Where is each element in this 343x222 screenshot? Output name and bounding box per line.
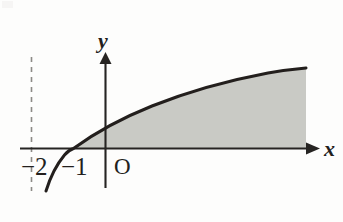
shaded-area-region	[74, 68, 307, 149]
graph-plot: −2 −1 O y x	[0, 0, 343, 222]
x-tick-label-minus-1: −1	[61, 153, 88, 180]
x-axis-arrow-icon	[306, 143, 320, 155]
x-axis-label: x	[323, 136, 335, 161]
y-axis-label: y	[95, 28, 108, 53]
origin-label: O	[114, 154, 131, 179]
figure-container: −2 −1 O y x	[0, 0, 343, 222]
scan-artifact	[2, 1, 13, 8]
y-axis-arrow-icon	[100, 52, 112, 64]
x-tick-label-minus-2: −2	[21, 153, 48, 180]
